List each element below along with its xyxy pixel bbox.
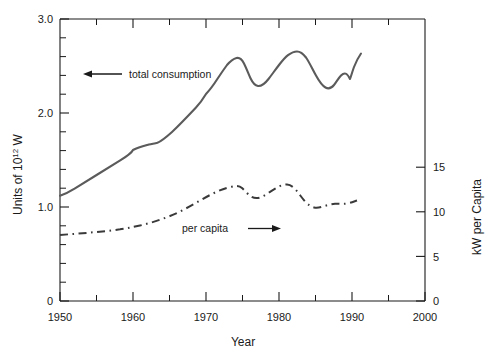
annotation-total-consumption-label: total consumption — [129, 68, 211, 80]
energy-consumption-chart: 0 1.0 2.0 3.0 0 5 10 15 1950 1960 1970 1… — [0, 0, 499, 353]
x-tick-label-2000: 2000 — [413, 311, 437, 323]
y-axis-title: Units of 1012 W — [11, 133, 25, 215]
x-tick-label-1960: 1960 — [121, 311, 145, 323]
x-axis-title: Year — [231, 335, 255, 349]
annotation-total-consumption: total consumption — [83, 68, 211, 80]
y-axis-minor-ticks — [60, 38, 66, 282]
x-tick-label-1990: 1990 — [340, 311, 364, 323]
svg-text:Units of 1012 W: Units of 1012 W — [11, 133, 25, 215]
y-tick-label-2: 2.0 — [38, 107, 53, 119]
x-tick-label-1970: 1970 — [194, 311, 218, 323]
y2-tick-label-3: 15 — [433, 161, 445, 173]
y-axis-major-ticks — [60, 19, 69, 301]
y2-axis-major-ticks — [416, 167, 425, 301]
y2-tick-label-1: 5 — [433, 251, 439, 263]
chart-figure: 0 1.0 2.0 3.0 0 5 10 15 1950 1960 1970 1… — [0, 0, 499, 353]
x-tick-label-1950: 1950 — [48, 311, 72, 323]
y2-tick-label-2: 10 — [433, 206, 445, 218]
annotation-per-capita: per capita — [182, 222, 281, 234]
y-tick-label-0: 0 — [47, 295, 53, 307]
y2-tick-label-0: 0 — [433, 295, 439, 307]
y-tick-label-3: 3.0 — [38, 13, 53, 25]
y-tick-label-1: 1.0 — [38, 201, 53, 213]
x-tick-label-1980: 1980 — [267, 311, 291, 323]
annotation-per-capita-label: per capita — [182, 222, 228, 234]
y2-axis-title: kW per Capita — [470, 179, 484, 255]
y2-axis-title-text: kW per Capita — [470, 179, 484, 255]
